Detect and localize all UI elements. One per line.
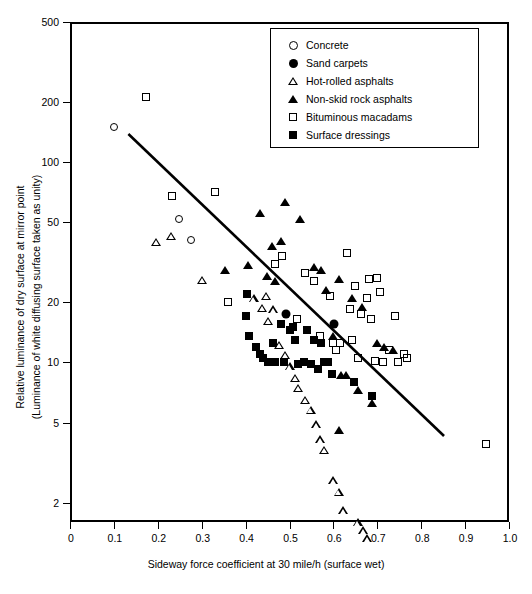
x-tick: 0.3 [202, 522, 203, 529]
legend-item-concrete: Concrete [285, 36, 478, 54]
data-point-square-filled [242, 312, 250, 320]
data-point-square-filled [271, 358, 279, 366]
y-tick: 10 [63, 362, 70, 363]
data-point-triangle-filled [270, 277, 280, 285]
data-point-triangle-open [306, 406, 316, 414]
data-point-square-filled [350, 378, 358, 386]
data-point-triangle-open [319, 446, 329, 454]
x-tick-label: 0.3 [195, 532, 210, 544]
data-point-circle-open [110, 123, 118, 131]
data-point-square-filled [269, 339, 277, 347]
y-tick: 5 [63, 423, 70, 424]
data-point-triangle-filled [353, 386, 363, 394]
data-point-square-filled [245, 332, 253, 340]
data-point-square-open [346, 305, 354, 313]
data-point-square-open [371, 357, 379, 365]
x-tick-label: 0.2 [151, 532, 166, 544]
data-point-square-open [363, 294, 371, 302]
data-point-square-open [379, 358, 387, 366]
data-point-square-open [310, 277, 318, 285]
data-point-triangle-open [334, 488, 344, 496]
data-point-square-open [373, 274, 381, 282]
data-point-triangle-filled [334, 426, 344, 434]
legend-item-label: Non-skid rock asphalts [306, 93, 412, 105]
data-point-square-filled [277, 320, 285, 328]
data-point-triangle-open [261, 292, 271, 300]
data-point-triangle-filled [334, 275, 344, 283]
data-point-triangle-filled [280, 198, 290, 206]
y-tick: 50 [63, 222, 70, 223]
data-point-triangle-open [166, 232, 176, 240]
legend-marker-triangle-open-icon [285, 77, 301, 85]
x-axis-title: Sideway force coefficient at 30 mile/h (… [0, 558, 532, 570]
data-point-triangle-open [328, 476, 338, 484]
data-point-triangle-open [263, 317, 273, 325]
triangle-open-icon [288, 77, 298, 85]
data-point-square-open [376, 288, 384, 296]
x-tick-label: 0.6 [327, 532, 342, 544]
square-filled-icon [289, 131, 297, 139]
data-point-triangle-filled [276, 237, 286, 245]
y-tick-label: 2 [53, 496, 59, 511]
data-point-square-filled [324, 358, 332, 366]
data-point-triangle-open [362, 534, 372, 542]
data-point-square-filled [317, 339, 325, 347]
data-point-square-filled [243, 290, 251, 298]
x-tick-label: 0.7 [371, 532, 386, 544]
y-tick-label: 10 [47, 355, 59, 370]
x-tick: 0.7 [377, 522, 378, 529]
y-tick: 2 [63, 503, 70, 504]
data-point-square-filled [307, 360, 315, 368]
x-tick: 0 [70, 522, 71, 529]
x-tick: 0.6 [333, 522, 334, 529]
x-tick-label: 0.5 [283, 532, 298, 544]
figure-scatter-plot: Relative luminance of dry surface at mir… [0, 0, 532, 594]
data-point-triangle-open [293, 384, 303, 392]
data-point-square-open [301, 269, 309, 277]
x-tick: 0.2 [158, 522, 159, 529]
data-point-square-open [336, 339, 344, 347]
data-point-square-open [354, 354, 362, 362]
y-tick: 500 [63, 22, 70, 23]
data-point-square-filled [289, 323, 297, 331]
y-tick-label: 100 [41, 155, 59, 170]
data-point-square-open [391, 312, 399, 320]
data-point-triangle-open [290, 374, 300, 382]
x-tick: 0.5 [290, 522, 291, 529]
data-point-square-open [168, 192, 176, 200]
legend-marker-circle-filled-icon [285, 59, 301, 68]
circle-filled-icon [289, 59, 298, 68]
data-point-triangle-open [315, 435, 325, 443]
x-tick: 0.8 [421, 522, 422, 529]
data-point-triangle-filled [243, 261, 253, 269]
data-point-triangle-open [268, 305, 278, 313]
legend-item-surface-dressings: Surface dressings [285, 126, 478, 144]
data-point-square-open [357, 310, 365, 318]
legend-item-label: Sand carpets [306, 57, 368, 69]
data-point-triangle-filled [295, 215, 305, 223]
legend-item-bituminous-macadams: Bituminous macadams [285, 108, 478, 126]
legend-marker-circle-open-icon [285, 41, 301, 50]
data-point-square-open [278, 252, 286, 260]
legend-marker-square-open-icon [285, 113, 301, 121]
y-axis-title-line-2: (Luminance of white diffusing surface ta… [30, 175, 42, 419]
legend-item-hot-rolled-asphalts: Hot-rolled asphalts [285, 72, 478, 90]
legend-marker-square-filled-icon [285, 131, 301, 139]
legend-item-label: Concrete [306, 39, 349, 51]
data-point-square-open [394, 358, 402, 366]
data-point-square-filled [280, 358, 288, 366]
data-point-triangle-filled [220, 266, 230, 274]
data-point-square-open [211, 188, 219, 196]
data-point-square-filled [303, 326, 311, 334]
y-tick-label: 20 [47, 295, 59, 310]
data-point-square-open [367, 315, 375, 323]
data-point-square-open [348, 336, 356, 344]
y-tick: 100 [63, 162, 70, 163]
data-point-square-open [343, 249, 351, 257]
data-point-triangle-open [353, 518, 363, 526]
data-point-circle-filled [329, 320, 338, 329]
x-tick: 0.4 [246, 522, 247, 529]
data-point-square-filled [368, 392, 376, 400]
data-point-triangle-open [338, 506, 348, 514]
x-tick-label: 0 [68, 532, 74, 544]
